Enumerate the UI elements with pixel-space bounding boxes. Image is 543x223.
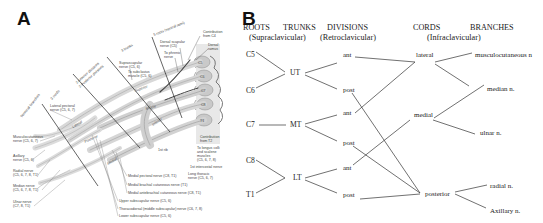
branch-musculocutaneous: musculocutaneous n: [475, 51, 532, 59]
header-branches: BRANCHES: [470, 23, 514, 32]
branch-ulnar: ulnar n.: [480, 129, 502, 137]
root-c8: C8: [246, 156, 255, 165]
annotation-longus-colli-4: (C5, 6, 7, 8): [197, 158, 216, 162]
annotation-median-2: (C5, 6, 7, 8, T1): [13, 188, 38, 192]
column-headers: ROOTS TRUNKS (Supraclavicular) DIVISIONS…: [243, 23, 514, 42]
brachial-plexus-illustration: Terminal branches 3 cords 2 Anterior div…: [0, 0, 235, 223]
annotation-musculocutaneous-2: nerve (C5, 6, 7): [13, 139, 38, 143]
trunks: UT MT LT: [290, 68, 302, 182]
annotation-medial-antebrachial-cutaneous: Medial antebrachial cutaneous nerve (C8,…: [128, 191, 201, 195]
branch-axillary: Axillary n.: [490, 207, 521, 215]
region-label-terminal: Terminal branches: [20, 93, 41, 119]
trunk-middle: MT: [290, 120, 302, 129]
annotation-ulnar-2: (C7, 8, T1): [13, 204, 30, 208]
annotation-medial-brachial-cutaneous: Medial brachial cutaneous nerve (T1): [128, 183, 187, 187]
header-supraclavicular: (Supraclavicular): [249, 33, 306, 42]
header-retroclavicular: (Retroclavicular): [320, 33, 376, 42]
annotation-suprascapular-2: nerve (C5, 6): [119, 65, 140, 69]
annotation-phrenic-2: nerve: [164, 55, 173, 59]
brachial-plexus-schematic: ROOTS TRUNKS (Supraclavicular) DIVISIONS…: [236, 0, 543, 223]
annotation-lateral-pectoral-2: nerve (C5, 6, 7): [50, 108, 75, 112]
division-upper-post: post: [343, 86, 355, 94]
roots: C5 C6 C7 C8 T1: [246, 50, 255, 199]
root-c7: C7: [246, 120, 255, 129]
cord-lateral: lateral: [416, 51, 434, 59]
branch-radial: radial n.: [490, 182, 513, 190]
panel-b-label: B: [242, 8, 256, 30]
cords: lateral medial posterior: [414, 51, 451, 198]
cord-posterior: posterior: [425, 190, 451, 198]
annotation-thoracodorsal: Thoracodorsal (middle subscapular) nerve…: [119, 207, 202, 211]
annotation-axillary-2: nerve (C5, 6): [13, 158, 34, 162]
root-c6: C6: [246, 86, 255, 95]
root-t1: T1: [246, 190, 255, 199]
annotation-long-thoracic-2: nerve (C5, 6, 7): [188, 176, 213, 180]
annotation-lower-subscapular: Lower subscapular nerve (C5, 6): [119, 214, 171, 218]
header-trunks: TRUNKS: [283, 23, 316, 32]
annotation-dorsal-scapular-2: nerve (C5): [160, 44, 177, 48]
vertebra-c5: C5: [198, 61, 203, 65]
annotation-upper-subscapular: Upper subscapular nerve (C5, 6): [119, 199, 171, 203]
division-middle-post: post: [343, 139, 355, 147]
annotation-dorsal-ramus-2: ramus: [208, 47, 218, 51]
annotations-left: Lateral pectoral nerve (C5, 6, 7) Muscul…: [13, 104, 75, 208]
header-cords: CORDS: [413, 23, 441, 32]
panel-a-anatomy-illustration: A: [0, 0, 235, 223]
region-label-cords: 3 cords: [50, 89, 61, 101]
division-upper-ant: ant: [343, 51, 352, 59]
label-first-rib: 1st rib: [158, 148, 168, 152]
panel-b-schematic-diagram: B ROOTS TRUNKS (Supraclavicular) DIVISIO…: [236, 0, 543, 223]
panel-a-label: A: [17, 8, 31, 30]
trunk-upper: UT: [290, 68, 300, 77]
annotation-c4-contribution-2: from C4: [203, 34, 216, 38]
annotation-t2-contribution-2: from T2: [200, 139, 212, 143]
vertebra-c7: C7: [201, 89, 206, 93]
trunk-lower: LT: [293, 173, 302, 182]
division-middle-ant: ant: [343, 109, 352, 117]
vertebra-c6: C6: [200, 75, 205, 79]
root-c5: C5: [246, 50, 255, 59]
branches: musculocutaneous n median n. ulnar n. ra…: [475, 51, 532, 215]
nerve-bundles: [35, 60, 204, 188]
region-label-trunks: 3 trunks: [121, 43, 134, 53]
division-lower-ant: ant: [343, 164, 352, 172]
divisions: ant post ant post ant post: [343, 51, 355, 199]
region-label-roots: 5 roots (ventral rami): [153, 21, 185, 37]
annotation-medial-pectoral: Medial pectoral nerve (C8, T1): [128, 174, 176, 178]
branch-median: median n.: [487, 85, 515, 93]
division-lower-post: post: [343, 191, 355, 199]
annotation-radial-2: (C5, 6, 7, 8, T1): [13, 173, 38, 177]
vertebra-t1: T1: [200, 119, 204, 123]
cord-medial: medial: [414, 111, 433, 119]
annotation-intercostal: 1st intercostal nerve: [190, 165, 222, 169]
header-infraclavicular: (Infraclavicular): [427, 33, 481, 42]
header-divisions: DIVISIONS: [327, 23, 368, 32]
vertebra-c8: C8: [201, 103, 206, 107]
